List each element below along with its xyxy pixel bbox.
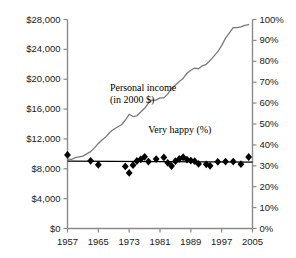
personal-income-annotation-line2: (in 2000 $) <box>110 94 176 106</box>
y-axis-right-tick-40: 40% <box>260 140 279 150</box>
personal-income-annotation: Personal income (in 2000 $) <box>110 82 176 105</box>
very-happy-data-point <box>222 158 229 166</box>
x-axis-tick-2005: 2005 <box>242 237 263 247</box>
y-axis-left-tick-28000: $28,000 <box>0 15 61 25</box>
y-axis-left-tick-24000: $24,000 <box>0 44 61 54</box>
very-happy-data-point <box>64 151 71 159</box>
very-happy-data-point <box>122 163 129 171</box>
y-axis-left-tick-16000: $16,000 <box>0 104 61 114</box>
personal-income-annotation-line1: Personal income <box>110 82 176 94</box>
y-axis-right-tick-30: 30% <box>260 161 279 171</box>
y-axis-left-tick-8000: $8,000 <box>0 164 61 174</box>
very-happy-data-point <box>245 153 252 161</box>
y-axis-left-tick-12000: $12,000 <box>0 134 61 144</box>
y-axis-left-tick-20000: $20,000 <box>0 74 61 84</box>
y-axis-right-tick-0: 0% <box>260 224 274 234</box>
x-axis-tick-1997: 1997 <box>211 237 232 247</box>
very-happy-data-point <box>95 161 102 169</box>
chart-figure: $0$4,000$8,000$12,000$16,000$20,000$24,0… <box>0 0 296 258</box>
very-happy-annotation: Very happy (%) <box>148 124 211 136</box>
very-happy-data-point <box>230 158 237 166</box>
x-axis-tick-1989: 1989 <box>180 237 201 247</box>
y-axis-right-tick-20: 20% <box>260 182 279 192</box>
very-happy-data-point <box>126 169 133 177</box>
y-axis-right-tick-70: 70% <box>260 77 279 87</box>
y-axis-right-tick-90: 90% <box>260 35 279 45</box>
y-axis-right-tick-50: 50% <box>260 119 279 129</box>
x-axis-tick-1965: 1965 <box>88 237 109 247</box>
y-axis-right-tick-10: 10% <box>260 203 279 213</box>
very-happy-data-point <box>87 157 94 165</box>
y-axis-right-tick-80: 80% <box>260 56 279 66</box>
very-happy-data-point <box>214 158 221 166</box>
x-axis-tick-1981: 1981 <box>149 237 170 247</box>
y-axis-right-tick-100: 100% <box>260 15 284 25</box>
x-axis-tick-1957: 1957 <box>57 237 78 247</box>
x-axis-tick-1973: 1973 <box>119 237 140 247</box>
y-axis-right-tick-60: 60% <box>260 98 279 108</box>
y-axis-left-tick-0: $0 <box>0 224 61 234</box>
very-happy-data-point <box>160 154 167 162</box>
y-axis-left-tick-4000: $4,000 <box>0 194 61 204</box>
